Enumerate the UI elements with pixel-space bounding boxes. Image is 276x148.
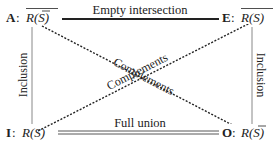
corner-o-letter: O [222, 125, 232, 140]
diagonal-i-e-complements: Complements [38, 22, 252, 131]
corner-a-sep: : [16, 10, 20, 25]
corner-e: E : R(S) [220, 8, 275, 25]
corner-e-sep: : [231, 10, 235, 25]
corner-i-letter: I [6, 125, 11, 140]
corner-e-letter: E [222, 10, 231, 25]
corner-i-expr: R(S) [21, 125, 45, 140]
edge-top-empty-intersection: Empty intersection [62, 3, 219, 19]
edge-bottom-full-union: Full union [58, 116, 219, 134]
edge-label-top: Empty intersection [93, 3, 189, 17]
corner-o-sep: : [232, 125, 236, 140]
corner-a: A : R(S) [4, 8, 60, 25]
edge-right-inclusion: Inclusion [252, 27, 268, 124]
corner-a-expr: R(S) [25, 10, 49, 25]
square-of-opposition-diagram: Empty intersection Full union Inclusion … [0, 0, 276, 148]
corner-o-expr: R(S) [240, 125, 264, 140]
edge-label-right: Inclusion [254, 53, 268, 98]
edge-left-inclusion: Inclusion [16, 27, 32, 124]
edge-label-left: Inclusion [16, 53, 30, 98]
corner-i: I : R(S) [4, 122, 56, 140]
edge-label-bottom: Full union [114, 116, 166, 130]
corner-i-sep: : [12, 125, 16, 140]
corner-o: O : R(S) [220, 124, 275, 142]
corner-e-expr: R(S) [240, 10, 264, 25]
corner-a-letter: A [6, 10, 16, 25]
